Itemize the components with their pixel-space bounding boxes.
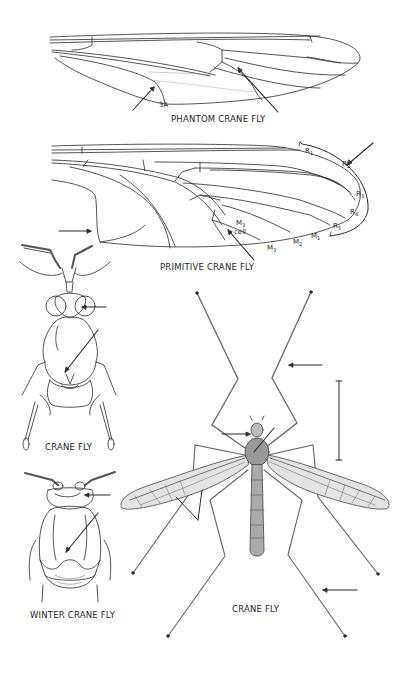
caption-crane-fly-thorax: CRANE FLY — [45, 442, 92, 452]
caption-crane-fly-full: CRANE FLY — [232, 604, 279, 614]
vein-label-r2: R2 — [342, 160, 350, 169]
vein-label-m2: M2 — [293, 238, 302, 247]
vein-label-r4: R4 — [350, 208, 358, 217]
crane-fly-thorax-drawing — [20, 245, 116, 450]
vein-label-3a: 3A — [159, 101, 168, 109]
crane-fly-full-drawing — [121, 291, 389, 638]
vein-label-r5: R5 — [333, 222, 341, 231]
caption-winter-crane-fly: WINTER CRANE FLY — [30, 610, 115, 620]
vein-label-m3: M3 — [267, 244, 276, 253]
illustration-plate: 3A PHANTOM CRANE FLY R1 R2 R3 R4 R5 M1 M… — [0, 0, 393, 673]
vein-label-cell: cell — [234, 228, 246, 236]
caption-primitive-crane-fly: PRIMITIVE CRANE FLY — [160, 262, 254, 272]
vein-label-r3: R3 — [356, 190, 364, 199]
primitive-wing-drawing — [52, 142, 373, 260]
winter-crane-fly-thorax-drawing — [25, 472, 115, 602]
vein-label-r1: R1 — [305, 147, 313, 156]
phantom-wing-drawing — [50, 33, 360, 112]
caption-phantom-crane-fly: PHANTOM CRANE FLY — [171, 114, 265, 124]
vein-label-m1: M1 — [311, 232, 320, 241]
vein-label-m3-cell: M3 — [236, 219, 245, 228]
plate-artwork — [0, 0, 393, 673]
